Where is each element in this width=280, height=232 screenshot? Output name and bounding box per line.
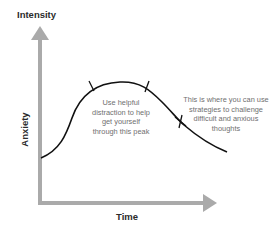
y-axis-top-label: Intensity bbox=[17, 9, 56, 20]
peak-annotation: Use helpful distraction to help get your… bbox=[86, 98, 156, 136]
peak-annotation-line: get yourself bbox=[86, 117, 156, 127]
y-axis-arrow-icon bbox=[31, 26, 49, 40]
challenge-annotation-line: strategies to challenge bbox=[182, 105, 270, 115]
peak-start-tick bbox=[89, 81, 94, 91]
peak-annotation-line: through this peak bbox=[86, 127, 156, 137]
peak-annotation-line: Use helpful bbox=[86, 98, 156, 108]
y-axis-side-label: Anxiety bbox=[19, 110, 30, 150]
challenge-annotation: This is where you can use strategies to … bbox=[182, 95, 270, 133]
challenge-annotation-line: This is where you can use bbox=[182, 95, 270, 105]
challenge-annotation-line: difficult and anxious bbox=[182, 114, 270, 124]
anxiety-curve-diagram: Intensity Anxiety Time Use helpful distr… bbox=[0, 0, 280, 232]
x-axis-label: Time bbox=[116, 211, 138, 222]
x-axis-arrow-icon bbox=[203, 194, 217, 212]
challenge-annotation-line: thoughts bbox=[182, 124, 270, 134]
peak-annotation-line: distraction to help bbox=[86, 108, 156, 118]
